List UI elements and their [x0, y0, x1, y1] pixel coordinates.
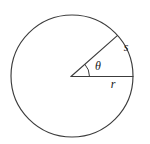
angle-theta-label: θ [95, 59, 101, 73]
angle-marker-arc [85, 64, 90, 76]
arc-length-label: s [124, 40, 129, 54]
circle-diagram: s θ r [0, 0, 150, 144]
figure-container: s θ r [0, 0, 150, 144]
radius-label: r [111, 77, 116, 91]
